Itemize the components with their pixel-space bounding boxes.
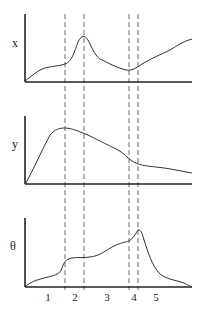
region-labels: 1 2 3 4 5	[45, 291, 159, 303]
panel-theta: θ	[10, 218, 192, 287]
y-curve	[26, 128, 192, 183]
theta-panel-label: θ	[10, 239, 16, 253]
x-curve	[25, 36, 192, 81]
region-label-5: 5	[153, 291, 159, 303]
region-label-2: 2	[72, 291, 78, 303]
region-label-1: 1	[45, 291, 51, 303]
panel-x: x	[12, 14, 192, 82]
dashed-separators	[65, 14, 138, 290]
panel-y: y	[12, 116, 192, 184]
y-panel-label: y	[12, 137, 18, 151]
theta-curve	[26, 230, 192, 287]
stacked-profile-diagram: x y θ 1 2 3 4 5	[0, 0, 204, 309]
x-panel-label: x	[12, 36, 18, 50]
region-label-3: 3	[104, 291, 110, 303]
region-label-4: 4	[131, 291, 137, 303]
